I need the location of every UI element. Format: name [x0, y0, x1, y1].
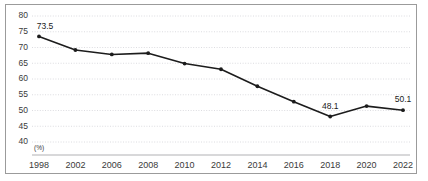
unit-label: (%) [34, 144, 44, 152]
chart-container: 404550556065707580 199820022006200820102… [5, 4, 417, 174]
data-point-label: 73.5 [37, 21, 54, 31]
x-tick-label: 2022 [393, 160, 413, 170]
data-point [183, 62, 187, 66]
x-tick-label: 2012 [211, 160, 231, 170]
data-point [328, 115, 332, 119]
data-point [74, 48, 78, 52]
x-tick-label: 2020 [357, 160, 377, 170]
data-point [401, 108, 405, 112]
y-axis-tick-labels: 404550556065707580 [19, 10, 29, 146]
y-tick-label: 45 [19, 121, 29, 131]
x-tick-label: 2002 [65, 160, 85, 170]
data-point-labels: 73.548.150.1 [37, 21, 412, 111]
data-point-label: 50.1 [395, 94, 412, 104]
y-tick-label: 70 [19, 42, 29, 52]
y-tick-label: 40 [19, 136, 29, 146]
x-axis-tick-labels: 1998200220062008201020122014201620182020… [29, 160, 413, 170]
x-tick-label: 2008 [138, 160, 158, 170]
data-point [365, 104, 369, 108]
data-point [110, 53, 114, 57]
data-series [39, 36, 403, 116]
y-tick-label: 65 [19, 58, 29, 68]
y-tick-label: 55 [19, 89, 29, 99]
gridlines [32, 16, 410, 142]
x-tick-label: 2016 [284, 160, 304, 170]
data-point [37, 35, 41, 39]
x-tick-label: 2006 [102, 160, 122, 170]
y-tick-label: 60 [19, 73, 29, 83]
data-point [219, 67, 223, 71]
y-tick-label: 75 [19, 26, 29, 36]
series-line [39, 36, 403, 116]
x-tick-label: 2010 [175, 160, 195, 170]
data-point [292, 100, 296, 104]
line-chart: 404550556065707580 199820022006200820102… [6, 5, 418, 175]
y-tick-label: 80 [19, 10, 29, 20]
data-point [146, 51, 150, 55]
y-tick-label: 50 [19, 105, 29, 115]
x-tick-label: 1998 [29, 160, 49, 170]
data-point [256, 84, 260, 88]
data-point-label: 48.1 [322, 101, 339, 111]
x-tick-label: 2014 [247, 160, 267, 170]
x-tick-label: 2018 [320, 160, 340, 170]
